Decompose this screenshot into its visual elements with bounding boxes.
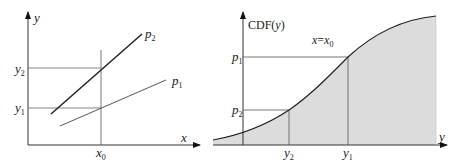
x0-label: x0 [95,145,106,162]
p1-label: p1 [171,73,183,90]
cdf-p2-label: p2 [231,102,243,119]
y1-label: y1 [13,100,25,117]
cdf-y2-label: y2 [282,145,294,162]
right-x-axis-label: y [437,129,445,144]
diagram-canvas: y x y2 y1 p2 p1 x0 [0,0,461,167]
cdf-y1-label: y1 [341,145,353,162]
cdf-p1-label: p1 [231,49,243,66]
condition-label: x=x0 [311,33,333,49]
right-panel: CDF(y) x=x0 p1 p2 y2 y1 y [213,12,447,162]
cdf-axis-label: CDF(y) [248,18,285,32]
p2-label: p2 [144,26,156,43]
left-x-axis-label: x [180,130,187,145]
y2-label: y2 [13,61,25,78]
left-panel: y x y2 y1 p2 p1 x0 [13,10,200,162]
left-y-axis-label: y [32,10,40,25]
p1-line [60,80,166,126]
p2-line [51,34,142,114]
